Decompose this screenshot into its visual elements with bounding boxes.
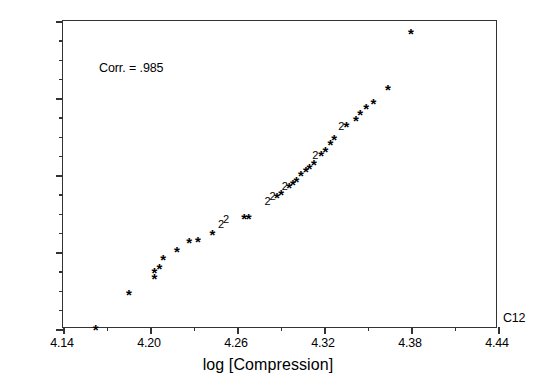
x-axis-tick-label: 4.32 bbox=[311, 336, 335, 350]
data-point: * bbox=[246, 210, 252, 225]
data-point: * bbox=[160, 252, 166, 267]
y-axis-tick-minor bbox=[59, 271, 63, 273]
y-axis-tick-minor bbox=[59, 194, 63, 196]
y-axis-tick-minor bbox=[59, 137, 63, 139]
scatter-plot-figure: **********22**22**2*******2****2******* … bbox=[0, 0, 536, 390]
x-axis-tick-label: 4.20 bbox=[137, 336, 161, 350]
x-axis-tick-label: 4.14 bbox=[50, 336, 74, 350]
x-axis-tick-minor bbox=[107, 327, 109, 331]
y-axis-tick-major bbox=[56, 252, 63, 254]
x-axis-tick-minor bbox=[194, 327, 196, 331]
x-axis-tick-minor bbox=[455, 327, 457, 331]
data-point-overlap: 2 bbox=[223, 213, 229, 224]
y-axis-tick-major bbox=[56, 21, 63, 23]
y-axis-tick-minor bbox=[59, 156, 63, 158]
y-axis-tick-minor bbox=[59, 310, 63, 312]
x-axis-tick-major bbox=[411, 327, 413, 334]
y-axis-tick-major bbox=[56, 98, 63, 100]
y-axis-tick-minor bbox=[59, 291, 63, 293]
x-axis-tick-major bbox=[498, 327, 500, 334]
data-point: * bbox=[126, 286, 132, 301]
x-axis-tick-major bbox=[150, 327, 152, 334]
correlation-annotation: Corr. = .985 bbox=[99, 61, 163, 75]
x-axis-tick-major bbox=[63, 327, 65, 334]
y-axis-tick-minor bbox=[59, 117, 63, 119]
data-point: * bbox=[93, 321, 99, 336]
series-label: C12 bbox=[503, 311, 525, 325]
data-point: * bbox=[174, 243, 180, 258]
y-axis-tick-major bbox=[56, 329, 63, 331]
data-point: * bbox=[195, 234, 201, 249]
x-axis-tick-minor bbox=[281, 327, 283, 331]
x-axis-tick-major bbox=[324, 327, 326, 334]
x-axis-tick-label: 4.38 bbox=[398, 336, 422, 350]
y-axis-tick-minor bbox=[59, 60, 63, 62]
x-axis-title: log [Compression] bbox=[0, 356, 536, 374]
y-axis-tick-minor bbox=[59, 214, 63, 216]
x-axis-tick-label: 4.44 bbox=[485, 336, 509, 350]
data-point: * bbox=[344, 118, 350, 133]
y-axis-tick-minor bbox=[59, 40, 63, 42]
data-point: * bbox=[363, 101, 369, 116]
x-axis-tick-major bbox=[237, 327, 239, 334]
data-point: * bbox=[408, 26, 414, 41]
y-axis-tick-minor bbox=[59, 233, 63, 235]
data-point: * bbox=[385, 82, 391, 97]
data-point: * bbox=[209, 227, 215, 242]
data-point: * bbox=[186, 234, 192, 249]
data-point: * bbox=[331, 132, 337, 147]
y-axis-tick-minor bbox=[59, 79, 63, 81]
y-axis-tick-major bbox=[56, 175, 63, 177]
x-axis-tick-minor bbox=[368, 327, 370, 331]
data-point: * bbox=[370, 95, 376, 110]
x-axis-tick-label: 4.26 bbox=[224, 336, 248, 350]
